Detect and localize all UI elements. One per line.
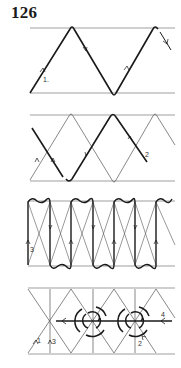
label-p4-3: 3: [52, 338, 56, 345]
label-1: 1.: [43, 76, 49, 83]
label-p4-2: 2: [138, 340, 142, 347]
label-3: 3: [30, 246, 34, 253]
panel-1: 1.: [30, 27, 175, 95]
braiding-diagram: 1. 2 3: [0, 0, 181, 368]
label-2: 2: [145, 151, 149, 158]
panel-4: 1 3 4 2: [28, 288, 175, 354]
label-p4-4: 4: [161, 311, 165, 318]
label-p4-1: 1: [37, 337, 41, 344]
panel-3: 3: [26, 199, 175, 269]
panel-2: 2: [30, 114, 175, 182]
